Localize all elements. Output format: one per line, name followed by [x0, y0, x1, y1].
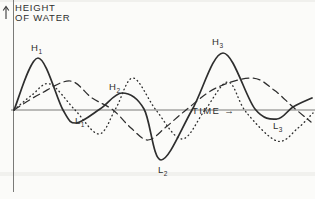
label-l3-sub: 3: [279, 126, 283, 133]
label-h3-sub: 3: [219, 42, 223, 49]
label-l2-sub: 2: [164, 170, 168, 177]
label-l3: L3: [273, 121, 282, 131]
label-h1-sub: 1: [38, 48, 42, 55]
label-l3-base: L: [273, 120, 278, 131]
label-h2-base: H: [109, 81, 116, 92]
label-l1-base: L: [75, 115, 80, 126]
label-l1: L1: [75, 116, 84, 126]
label-h1-base: H: [31, 42, 38, 53]
label-l2: L2: [158, 165, 167, 175]
label-h3: H3: [212, 37, 223, 47]
y-axis-label: HEIGHT OF WATER: [15, 3, 70, 23]
label-h3-base: H: [212, 36, 219, 47]
curve-resultant-solid: [14, 53, 312, 160]
figure-canvas: HEIGHT OF WATER TIME → H1 H2 H3 L1 L2 L3: [0, 0, 315, 199]
label-l1-sub: 1: [81, 121, 85, 128]
curve-component-dashed: [14, 78, 311, 140]
label-h2: H2: [109, 82, 120, 92]
y-axis-label-line2: OF WATER: [15, 13, 70, 23]
label-h1: H1: [31, 43, 42, 53]
x-axis-label: TIME →: [192, 106, 235, 116]
up-arrow-icon: [3, 7, 9, 20]
label-l2-base: L: [158, 164, 163, 175]
label-h2-sub: 2: [116, 87, 120, 94]
